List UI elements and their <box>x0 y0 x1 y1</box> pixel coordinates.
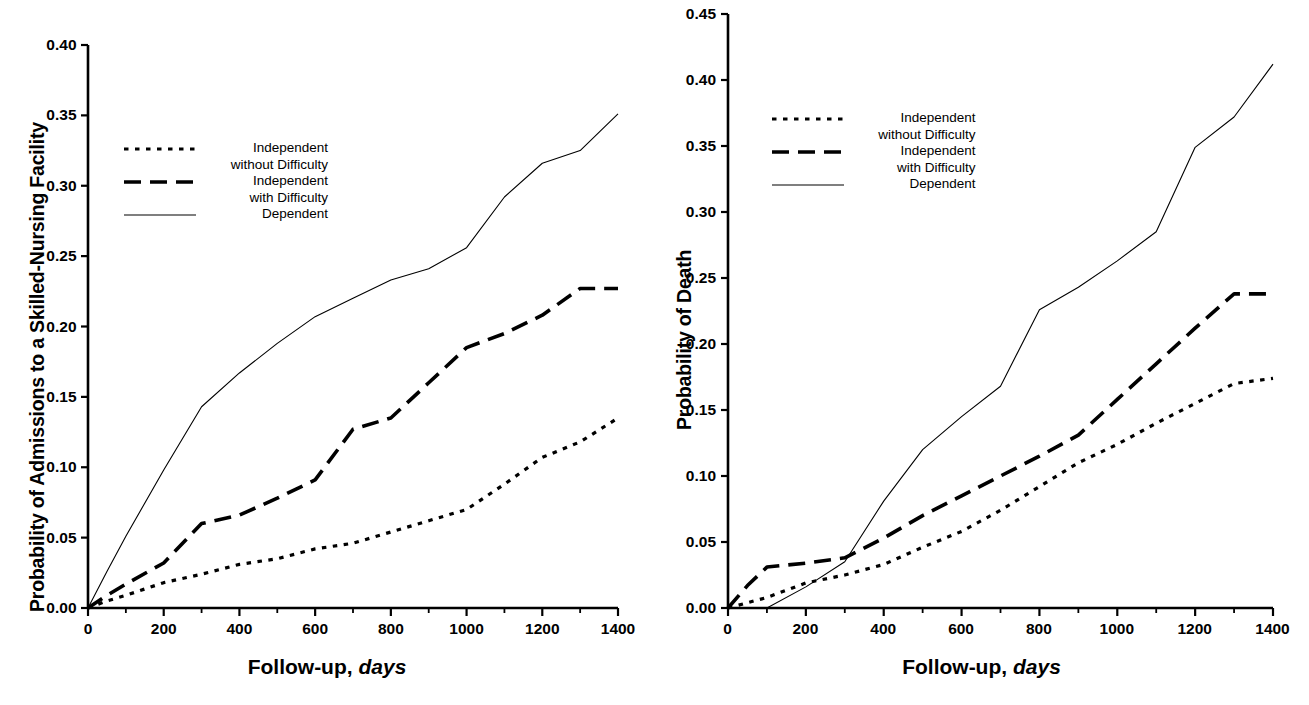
legend-item: Independent <box>770 143 976 160</box>
legend-item-sublabel: without Difficulty <box>848 127 976 143</box>
y-axis-tick-label: 0.25 <box>46 247 76 265</box>
y-axis-tick-label: 0.20 <box>46 318 76 336</box>
legend-line-swatch-solid <box>770 176 848 193</box>
legend-item: Dependent <box>770 176 976 193</box>
legend-item: Independent <box>122 140 328 157</box>
y-axis-tick-label: 0.15 <box>46 388 76 406</box>
x-axis-title-italic: days <box>358 655 406 678</box>
x-axis-title: Follow-up, days <box>0 655 654 679</box>
plot-area <box>655 0 1309 640</box>
legend-item-sublabel: without Difficulty <box>200 157 328 173</box>
y-axis-tick-label: 0.25 <box>686 269 716 287</box>
y-axis-tick-label: 0.15 <box>686 401 716 419</box>
legend-line-swatch-dashed <box>122 173 200 190</box>
y-axis-tick-label: 0.30 <box>46 177 76 195</box>
series-line <box>728 294 1273 608</box>
y-axis-tick-label: 0.35 <box>686 137 716 155</box>
x-axis-tick-label: 1000 <box>1100 620 1134 638</box>
legend: Independentwithout DifficultyIndependent… <box>122 140 328 223</box>
y-axis-tick-label: 0.05 <box>686 533 716 551</box>
y-axis-tick-label: 0.20 <box>686 335 716 353</box>
x-axis-tick-label: 400 <box>226 620 252 638</box>
series-line <box>728 378 1273 608</box>
legend-item-label: Independent <box>848 143 976 159</box>
legend-item-label: Dependent <box>200 206 328 222</box>
legend-line-swatch-dotted <box>122 140 200 157</box>
legend-item-label: Independent <box>200 173 328 189</box>
legend-line-swatch-dotted <box>770 110 848 127</box>
x-axis-tick-label: 0 <box>84 620 93 638</box>
x-axis-tick-label: 1400 <box>601 620 635 638</box>
figure-two-panel-survival-curves: Probability of Admissions to a Skilled-N… <box>0 0 1309 705</box>
y-axis-tick-label: 0.00 <box>46 599 76 617</box>
y-axis-tick-label: 0.40 <box>46 36 76 54</box>
x-axis-tick-label: 800 <box>378 620 404 638</box>
legend-line-swatch-dashed <box>770 143 848 160</box>
y-axis-tick-label: 0.10 <box>46 458 76 476</box>
x-axis-title: Follow-up, days <box>655 655 1309 679</box>
x-axis-tick-label: 600 <box>302 620 328 638</box>
y-axis-tick-label: 0.10 <box>686 467 716 485</box>
x-axis-tick-label: 1000 <box>449 620 483 638</box>
x-axis-tick-label: 1400 <box>1255 620 1289 638</box>
x-axis-tick-label: 200 <box>792 620 818 638</box>
plot-area <box>0 0 654 640</box>
legend-item-sublabel: with Difficulty <box>848 160 976 176</box>
panel-admissions: Probability of Admissions to a Skilled-N… <box>0 0 655 705</box>
panel-death: Probability of Death Follow-up, days Ind… <box>655 0 1309 705</box>
legend-item: Independent <box>122 173 328 190</box>
x-axis-tick-label: 400 <box>870 620 896 638</box>
x-axis-tick-label: 0 <box>723 620 732 638</box>
x-axis-title-main: Follow-up, <box>248 655 353 678</box>
legend-line-swatch-solid <box>122 206 200 223</box>
y-axis-tick-label: 0.30 <box>686 203 716 221</box>
x-axis-tick-label: 1200 <box>1177 620 1211 638</box>
y-axis-tick-label: 0.35 <box>46 106 76 124</box>
x-axis-title-italic: days <box>1013 655 1061 678</box>
legend-item-label: Independent <box>848 110 976 126</box>
legend-item-sublabel: with Difficulty <box>200 190 328 206</box>
y-axis-tick-label: 0.05 <box>46 529 76 547</box>
y-axis-tick-label: 0.00 <box>686 599 716 617</box>
x-axis-tick-label: 600 <box>948 620 974 638</box>
x-axis-tick-label: 800 <box>1026 620 1052 638</box>
legend: Independentwithout DifficultyIndependent… <box>770 110 976 193</box>
x-axis-tick-label: 1200 <box>525 620 559 638</box>
x-axis-title-main: Follow-up, <box>902 655 1007 678</box>
x-axis-tick-label: 200 <box>151 620 177 638</box>
legend-item: Dependent <box>122 206 328 223</box>
y-axis-tick-label: 0.40 <box>686 71 716 89</box>
legend-item-label: Dependent <box>848 176 976 192</box>
series-line <box>88 418 618 608</box>
series-line <box>88 289 618 609</box>
legend-item-label: Independent <box>200 140 328 156</box>
y-axis-tick-label: 0.45 <box>686 5 716 23</box>
legend-item: Independent <box>770 110 976 127</box>
